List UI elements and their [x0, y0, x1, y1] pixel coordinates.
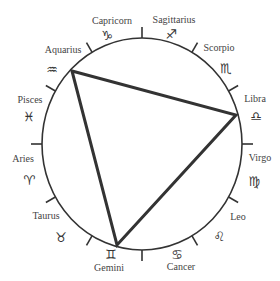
air-trine-triangle [72, 71, 236, 245]
sign-boundary-tick [87, 43, 93, 53]
sign-label-scorpio: Scorpio [203, 42, 234, 53]
sign-label-aries: Aries [12, 153, 34, 164]
sagittarius-glyph-icon: ♐ [165, 27, 177, 42]
capricorn-glyph-icon: ♑ [101, 28, 113, 43]
sign-label-sagittarius: Sagittarius [153, 14, 196, 25]
leo-glyph-icon: ♌ [213, 229, 225, 244]
sign-boundary-tick [192, 236, 198, 246]
sign-boundary-tick [87, 236, 93, 246]
sign-boundary-tick [229, 197, 239, 203]
sign-label-capricorn: Capricorn [92, 15, 132, 26]
gemini-glyph-icon: ♊ [105, 247, 117, 262]
sign-label-pisces: Pisces [18, 94, 43, 105]
zodiac-diagram: Capricorn♑Sagittarius♐Scorpio♏Libra♎Virg… [0, 0, 280, 281]
sign-label-leo: Leo [230, 211, 246, 222]
sign-boundary-tick [46, 86, 56, 92]
libra-glyph-icon: ♎ [250, 109, 262, 124]
sign-label-libra: Libra [244, 93, 266, 104]
sign-boundary-tick [46, 197, 56, 203]
aries-glyph-icon: ♈ [23, 173, 35, 188]
sign-label-aquarius: Aquarius [45, 44, 82, 55]
virgo-glyph-icon: ♍ [248, 174, 260, 189]
pisces-glyph-icon: ♓ [23, 109, 35, 124]
aquarius-glyph-icon: ♒ [46, 62, 58, 77]
sign-label-cancer: Cancer [167, 261, 195, 272]
scorpio-glyph-icon: ♏ [220, 61, 232, 76]
zodiac-wheel [0, 0, 280, 281]
cancer-glyph-icon: ♋ [171, 247, 183, 262]
sign-boundary-tick [192, 43, 198, 53]
taurus-glyph-icon: ♉ [55, 230, 67, 245]
sign-label-gemini: Gemini [94, 262, 124, 273]
sign-label-taurus: Taurus [32, 210, 59, 221]
sign-boundary-tick [229, 86, 239, 92]
sign-label-virgo: Virgo [249, 152, 272, 163]
